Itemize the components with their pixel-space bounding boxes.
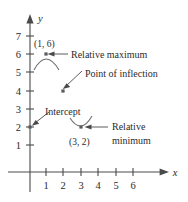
- y-tick-label-5: 5: [16, 67, 21, 78]
- y-axis: [26, 14, 33, 192]
- point-relative-maximum: [44, 52, 47, 55]
- y-axis-arrowhead-icon: [26, 14, 33, 23]
- point-intercept: [28, 125, 31, 128]
- x-axis-arrowhead-icon: [160, 168, 169, 175]
- y-tick-label-2: 2: [16, 122, 21, 133]
- x-tick-label-3: 3: [78, 180, 83, 191]
- y-axis-label: y: [37, 13, 43, 24]
- graph-figure: 7 6 5 4 3 2 1 1 2 3 4 5 6 y x: [0, 0, 188, 202]
- x-tick-label-1: 1: [43, 180, 48, 191]
- point-of-inflection-marker: [61, 89, 64, 92]
- y-axis-tick-labels: 7 6 5 4 3 2 1: [16, 31, 22, 151]
- y-tick-label-7: 7: [16, 31, 21, 42]
- point-relative-minimum: [79, 125, 82, 128]
- x-tick-label-5: 5: [113, 180, 118, 191]
- max-coordinate-label: (1, 6): [34, 39, 55, 50]
- x-tick-label-4: 4: [95, 180, 101, 191]
- min-coordinate-label: (3, 2): [69, 137, 90, 148]
- x-axis-tick-labels: 1 2 3 4 5 6: [43, 180, 135, 191]
- coordinate-plane-svg: 7 6 5 4 3 2 1 1 2 3 4 5 6 y x: [0, 0, 188, 202]
- x-axis: [8, 168, 169, 175]
- relative-maximum-arrowhead-icon: [48, 52, 55, 57]
- relative-minimum-arrowhead-icon: [85, 125, 92, 130]
- y-tick-label-1: 1: [16, 140, 21, 151]
- x-axis-label: x: [172, 167, 178, 178]
- x-tick-label-2: 2: [60, 180, 65, 191]
- y-tick-label-6: 6: [16, 49, 21, 60]
- relative-maximum-arc: [34, 59, 59, 70]
- annotation-intercept: Intercept: [45, 106, 81, 117]
- annotation-relative-minimum-line2: minimum: [112, 135, 151, 146]
- point-of-inflection-leader-line: [66, 71, 82, 86]
- y-tick-label-3: 3: [16, 104, 21, 115]
- relative-minimum-leader: [85, 125, 109, 130]
- relative-minimum-arc: [70, 116, 92, 126]
- point-of-inflection-arrowhead-icon: [63, 83, 70, 89]
- x-tick-label-6: 6: [130, 180, 135, 191]
- y-tick-label-4: 4: [16, 86, 22, 97]
- annotation-relative-minimum-line1: Relative: [112, 121, 146, 132]
- annotation-point-of-inflection: Point of inflection: [85, 68, 158, 79]
- relative-maximum-leader: [48, 52, 69, 57]
- annotation-relative-maximum: Relative maximum: [71, 49, 148, 60]
- point-of-inflection-leader: [63, 71, 82, 89]
